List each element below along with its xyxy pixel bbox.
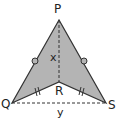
equal-mark-circle-ps — [81, 58, 87, 64]
geometry-diagram: P Q R S x y — [0, 0, 128, 127]
length-label-y: y — [57, 106, 64, 119]
equal-mark-circle-pq — [32, 58, 38, 64]
length-label-x: x — [50, 51, 57, 64]
vertex-label-q: Q — [1, 97, 10, 111]
vertex-label-r: R — [55, 84, 63, 98]
vertex-label-s: S — [108, 98, 116, 112]
vertex-label-p: P — [54, 2, 61, 16]
